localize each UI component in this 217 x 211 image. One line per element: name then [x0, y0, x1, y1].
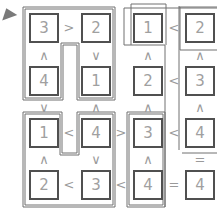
- cell-r1c2[interactable]: 2: [81, 13, 111, 43]
- constraint-r3-c2c3: >: [114, 126, 128, 140]
- cell-r2c4[interactable]: 3: [185, 66, 215, 96]
- cell-r1c3[interactable]: 1: [133, 13, 163, 43]
- constraint-r3-c3c4: <: [167, 126, 181, 140]
- cell-r3c2[interactable]: 4: [81, 118, 111, 148]
- constraint-c2-r2r3: ∧: [89, 101, 103, 115]
- constraint-r4-c1c2: <: [62, 178, 76, 192]
- constraint-c4-r1r2: ∧: [193, 49, 207, 63]
- constraint-c1-r2r3: ∨: [37, 101, 51, 115]
- constraint-r4-c3c4: =: [167, 178, 181, 192]
- cell-r4c2[interactable]: 3: [81, 170, 111, 200]
- cell-r1c1[interactable]: 3: [29, 13, 59, 43]
- constraint-r3-c1c2: <: [62, 126, 76, 140]
- constraint-r2-c3c4: <: [167, 74, 181, 88]
- constraint-c3-r1r2: ∧: [141, 49, 155, 63]
- cell-r2c2[interactable]: 1: [81, 66, 111, 96]
- cell-r3c3[interactable]: 3: [133, 118, 163, 148]
- constraint-r1-c3c4: <: [167, 21, 181, 35]
- constraint-c1-r3r4: ∧: [37, 153, 51, 167]
- constraint-r4-c2c3: <: [114, 178, 128, 192]
- cell-r2c3[interactable]: 2: [133, 66, 163, 96]
- cell-r4c3[interactable]: 4: [133, 170, 163, 200]
- cell-r4c4[interactable]: 4: [185, 170, 215, 200]
- cell-r2c1[interactable]: 4: [29, 66, 59, 96]
- constraint-c1-r1r2: ∧: [37, 49, 51, 63]
- cell-r1c4[interactable]: 2: [185, 13, 215, 43]
- constraint-c4-r2r3: ∧: [193, 101, 207, 115]
- constraint-c3-r2r3: ∧: [141, 101, 155, 115]
- cell-r3c1[interactable]: 1: [29, 118, 59, 148]
- constraint-c2-r1r2: ∨: [89, 49, 103, 63]
- constraint-r1-c1c2: >: [62, 21, 76, 35]
- constraint-c4-r3r4: =: [193, 153, 207, 167]
- cursor-pointer-icon: [0, 6, 17, 21]
- cell-r4c1[interactable]: 2: [29, 170, 59, 200]
- constraint-c3-r3r4: ∧: [141, 153, 155, 167]
- constraint-c2-r3r4: ∨: [89, 153, 103, 167]
- cell-r3c4[interactable]: 4: [185, 118, 215, 148]
